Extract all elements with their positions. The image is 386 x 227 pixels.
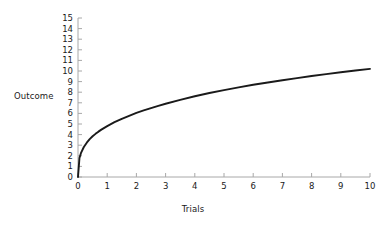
- chart-figure: 0123456789101112131415 012345678910 Outc…: [0, 0, 386, 227]
- y-axis-tick-label: 8: [52, 88, 73, 97]
- y-axis-tick-label: 14: [52, 24, 73, 33]
- y-axis-tick-label: 15: [52, 14, 73, 23]
- y-axis-tick-label: 12: [52, 46, 73, 55]
- x-axis-tick-label: 8: [309, 182, 314, 191]
- y-axis-tick-label: 9: [52, 77, 73, 86]
- x-axis-tick-label: 10: [365, 182, 376, 191]
- y-axis-tick-label: 13: [52, 35, 73, 44]
- x-axis-tick-label: 6: [250, 182, 255, 191]
- y-axis-tick-label: 10: [52, 67, 73, 76]
- y-axis-tick-label: 6: [52, 109, 73, 118]
- y-axis-tick-label: 1: [52, 162, 73, 171]
- y-axis-tick-label: 4: [52, 130, 73, 139]
- y-axis-label: Outcome: [14, 91, 54, 101]
- data-series-group: [78, 69, 370, 177]
- y-axis-tick-label: 2: [52, 152, 73, 161]
- y-axis-tick-label: 7: [52, 99, 73, 108]
- data-series-line: [78, 69, 370, 177]
- y-axis-tick-label: 3: [52, 141, 73, 150]
- y-axis-tick-label: 5: [52, 120, 73, 129]
- x-axis-ticks: [78, 173, 370, 177]
- y-axis-tick-label: 0: [52, 173, 73, 182]
- x-axis-label: Trials: [0, 204, 386, 214]
- x-axis-tick-label: 1: [104, 182, 109, 191]
- x-axis-tick-label: 9: [338, 182, 343, 191]
- x-axis-tick-label: 7: [280, 182, 285, 191]
- x-axis-tick-label: 3: [163, 182, 168, 191]
- x-axis-tick-label: 0: [75, 182, 80, 191]
- x-axis-tick-label: 4: [192, 182, 197, 191]
- y-axis-tick-label: 11: [52, 56, 73, 65]
- x-axis-tick-label: 5: [221, 182, 226, 191]
- x-axis-tick-label: 2: [134, 182, 139, 191]
- x-axis: [78, 173, 370, 177]
